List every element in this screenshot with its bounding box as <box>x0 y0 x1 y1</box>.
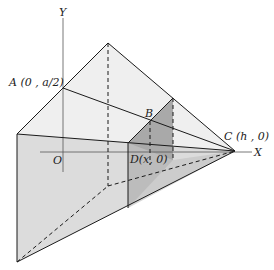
pyramid-cross-section-diagram: Y X O A (0 , a/2) B C (h , 0) D(x, 0) <box>0 0 274 270</box>
origin-label: O <box>53 154 62 167</box>
top-face <box>17 43 235 151</box>
point-d-label: D(x, 0) <box>129 153 168 166</box>
y-axis-label: Y <box>59 6 68 19</box>
point-a-label: A (0 , a/2) <box>8 76 64 89</box>
point-b-label: B <box>144 107 153 120</box>
x-axis-label: X <box>253 146 263 159</box>
point-c-label: C (h , 0) <box>224 130 269 143</box>
front-face <box>17 134 235 262</box>
